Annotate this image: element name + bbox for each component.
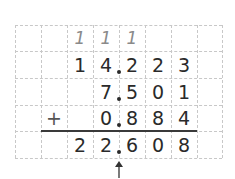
carry-digit: 1 — [119, 25, 145, 51]
decimal-point — [117, 70, 121, 74]
grid-line — [197, 25, 198, 158]
grid-line — [15, 158, 222, 159]
digit: 0 — [145, 79, 171, 105]
digit: 2 — [145, 52, 171, 78]
arrow-up-icon — [114, 161, 124, 178]
digit: 0 — [93, 105, 119, 131]
digit: 1 — [171, 79, 197, 105]
digit: 4 — [93, 52, 119, 78]
sum-digit: 6 — [119, 132, 145, 158]
digit: 5 — [119, 79, 145, 105]
carry-digit: 1 — [93, 25, 119, 51]
decimal-point — [117, 123, 121, 127]
decimal-point — [117, 150, 121, 154]
digit: 3 — [171, 52, 197, 78]
sum-digit: 2 — [67, 132, 93, 158]
digit: 8 — [119, 105, 145, 131]
worksheet-grid: 1 1 1 1 4 2 2 3 7 5 0 1 + 0 8 8 4 2 2 6 … — [15, 25, 222, 158]
digit: 1 — [67, 52, 93, 78]
digit: 2 — [119, 52, 145, 78]
sum-underline — [41, 130, 197, 132]
sum-digit: 8 — [171, 132, 197, 158]
plus-sign: + — [41, 105, 67, 131]
sum-digit: 2 — [93, 132, 119, 158]
carry-digit: 1 — [67, 25, 93, 51]
digit: 7 — [93, 79, 119, 105]
digit: 8 — [145, 105, 171, 131]
grid-line — [41, 25, 42, 158]
grid-line — [222, 25, 223, 158]
decimal-point — [117, 97, 121, 101]
grid-line — [15, 25, 16, 158]
digit: 4 — [171, 105, 197, 131]
sum-digit: 0 — [145, 132, 171, 158]
